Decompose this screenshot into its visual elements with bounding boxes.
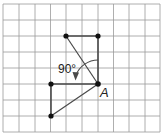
point-rotated-top-right <box>95 33 100 38</box>
rotation-diagram: 90° A <box>0 0 163 136</box>
point-rotated-top-left <box>63 33 68 38</box>
angle-label: 90° <box>58 62 76 76</box>
point-original-left <box>48 81 53 86</box>
point-original-bottom <box>48 113 53 118</box>
grid <box>3 4 160 132</box>
point-a-label: A <box>99 85 109 100</box>
